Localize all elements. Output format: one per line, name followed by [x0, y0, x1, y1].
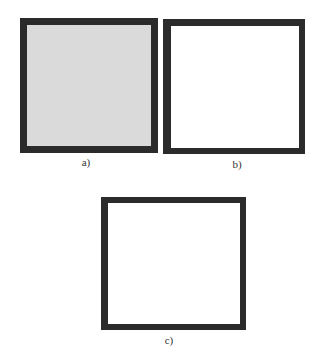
panel-b-caption: b): [222, 158, 252, 170]
panel-a-gray-filled-square: [20, 18, 158, 153]
panel-b-white-square: [163, 19, 305, 154]
panel-a-caption: a): [71, 156, 101, 168]
panel-c-caption: c): [154, 334, 184, 346]
panel-c-white-square: [101, 197, 246, 330]
